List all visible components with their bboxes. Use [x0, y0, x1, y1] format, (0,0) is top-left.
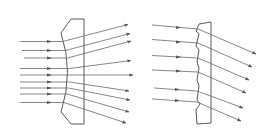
optics-diagram: Refraction of parallel light rays throug… — [0, 0, 268, 136]
concave-lens-panel — [20, 19, 133, 124]
fresnel-lens-panel — [152, 22, 256, 124]
incoming-rays-fresnel — [152, 25, 198, 102]
outgoing-rays — [63, 25, 134, 124]
incoming-rays — [20, 40, 70, 104]
diagram-canvas — [0, 0, 268, 136]
outgoing-rays-fresnel — [197, 29, 256, 121]
fresnel-lens-shape — [196, 22, 211, 124]
